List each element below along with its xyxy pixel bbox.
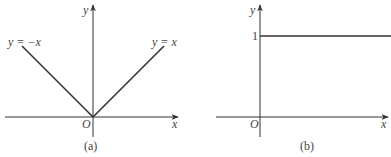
panel-a: y x O y = −x y = x (a) — [5, 3, 178, 153]
label-y-x: y = x — [151, 35, 177, 49]
caption-b: (b) — [300, 139, 314, 153]
y-axis-label: y — [82, 3, 89, 17]
figure-canvas: y x O y = −x y = x (a) y x O 1 (b) — [0, 0, 391, 157]
panel-b: y x O 1 (b) — [216, 3, 391, 153]
x-axis-label: x — [380, 117, 387, 131]
x-axis-label: x — [171, 117, 178, 131]
caption-a: (a) — [84, 139, 97, 153]
label-y-neg-x: y = −x — [7, 35, 42, 49]
y-axis-label: y — [249, 3, 256, 17]
curve-y-x — [93, 46, 164, 117]
curve-y-neg-x — [22, 46, 93, 117]
origin-label: O — [250, 117, 259, 131]
y-tick-1-label: 1 — [252, 29, 258, 43]
origin-label: O — [82, 117, 91, 131]
